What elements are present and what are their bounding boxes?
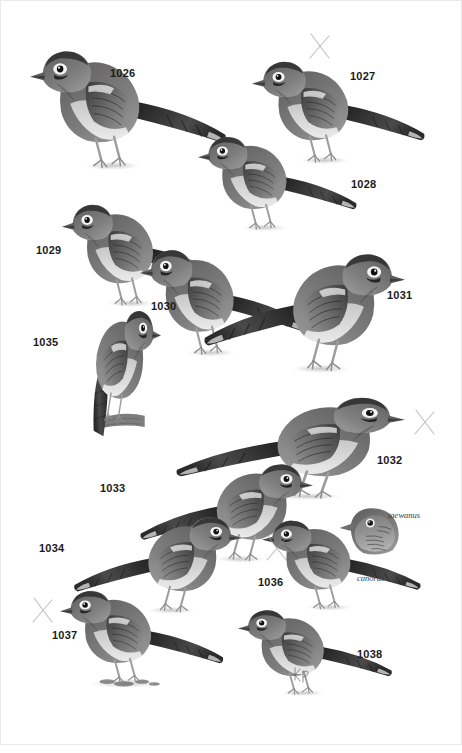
plate-number-1038: 1038	[357, 649, 382, 660]
subspecies-label-canorus: canorus	[357, 574, 384, 583]
bird-figure-1035	[36, 300, 161, 440]
plate-number-1037: 1037	[52, 630, 77, 641]
pencil-check-mark-1037	[30, 595, 56, 625]
bird-figure-1036-head-taewanus	[338, 500, 408, 560]
plate-number-1028: 1028	[351, 179, 376, 190]
plate-number-1032: 1032	[377, 455, 402, 466]
plate-border-bottom	[0, 744, 462, 745]
plate-number-1033: 1033	[100, 483, 125, 494]
plate-number-1026: 1026	[110, 68, 135, 79]
bird-figure-1037	[60, 582, 235, 697]
plate-number-1030: 1030	[151, 301, 176, 312]
plate-number-1029: 1029	[36, 245, 61, 256]
bird-figure-1031	[190, 243, 405, 388]
pencil-check-mark-1032	[412, 407, 438, 437]
artist-signature	[292, 664, 312, 684]
plate-number-1034: 1034	[39, 543, 64, 554]
pencil-check-mark-1036	[264, 533, 290, 563]
plate-border-left	[0, 0, 1, 745]
illustration-plate: 1026102710281029103010311032103310341035…	[0, 0, 462, 753]
plate-number-1031: 1031	[387, 290, 412, 301]
subspecies-label-taewanus: taewanus	[388, 511, 420, 520]
plate-border-top	[0, 0, 462, 1]
plate-number-1027: 1027	[350, 71, 375, 82]
plate-number-1036: 1036	[258, 577, 283, 588]
pencil-check-mark-1027	[307, 31, 333, 61]
plate-number-1035: 1035	[33, 337, 58, 348]
